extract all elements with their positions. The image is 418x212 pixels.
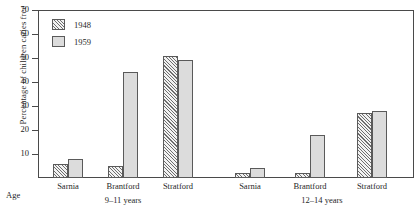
bar-1959-brantford-9-11 — [123, 72, 138, 178]
y-tick-label: 10 — [0, 148, 29, 158]
y-tick-label: 30 — [0, 100, 29, 110]
bar-1948-sarnia-12-14 — [235, 173, 250, 178]
y-tick-label: 50 — [0, 52, 29, 62]
legend-item-1959: 1959 — [52, 33, 91, 50]
y-tick-mark — [32, 10, 38, 11]
x-category-label-stratford-12-14: Stratford — [332, 181, 412, 191]
bar-1948-sarnia-9-11 — [53, 164, 68, 178]
legend-swatch-solid-icon — [52, 36, 65, 47]
y-tick-mark — [32, 82, 38, 83]
legend-swatch-hatched-icon — [52, 19, 65, 30]
y-tick-label: 40 — [0, 76, 29, 86]
x-group-label-9-11-years: 9–11 years — [73, 195, 173, 205]
legend-label-1959: 1959 — [74, 37, 91, 47]
legend-item-1948: 1948 — [52, 16, 91, 33]
y-tick-mark — [32, 106, 38, 107]
x-group-label-12-14-years: 12–14 years — [272, 195, 372, 205]
bar-1959-brantford-12-14 — [310, 135, 325, 178]
y-tick-mark — [32, 34, 38, 35]
bar-1959-sarnia-9-11 — [68, 159, 83, 178]
y-tick-mark — [32, 154, 38, 155]
bar-1959-stratford-12-14 — [372, 111, 387, 178]
bar-1948-brantford-12-14 — [295, 173, 310, 178]
bar-1959-stratford-9-11 — [178, 60, 193, 178]
x-axis-title: Age — [6, 190, 20, 200]
bar-chart: Percentage of children caries free 10203… — [0, 0, 418, 212]
y-tick-mark — [32, 130, 38, 131]
bar-1948-stratford-12-14 — [357, 113, 372, 178]
legend: 1948 1959 — [52, 16, 91, 50]
y-tick-label: 60 — [0, 28, 29, 38]
y-tick-mark — [32, 58, 38, 59]
y-tick-label: 70 — [0, 4, 29, 14]
bar-1948-stratford-9-11 — [163, 56, 178, 178]
bar-1948-brantford-9-11 — [108, 166, 123, 178]
y-tick-label: 20 — [0, 124, 29, 134]
legend-label-1948: 1948 — [74, 20, 91, 30]
x-category-label-stratford-9-11: Stratford — [138, 181, 218, 191]
bar-1959-sarnia-12-14 — [250, 168, 265, 178]
